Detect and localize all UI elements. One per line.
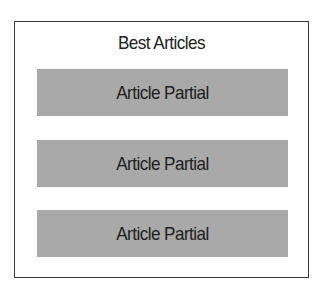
article-partial-label: Article Partial	[116, 153, 209, 175]
article-partial-block: Article Partial	[37, 140, 288, 187]
article-partial-label: Article Partial	[116, 223, 209, 245]
article-partial-block: Article Partial	[37, 210, 288, 257]
best-articles-container: Best Articles Article Partial Article Pa…	[14, 21, 309, 278]
container-title: Best Articles	[30, 32, 294, 54]
article-partial-label: Article Partial	[116, 82, 209, 104]
article-partial-block: Article Partial	[37, 69, 288, 116]
